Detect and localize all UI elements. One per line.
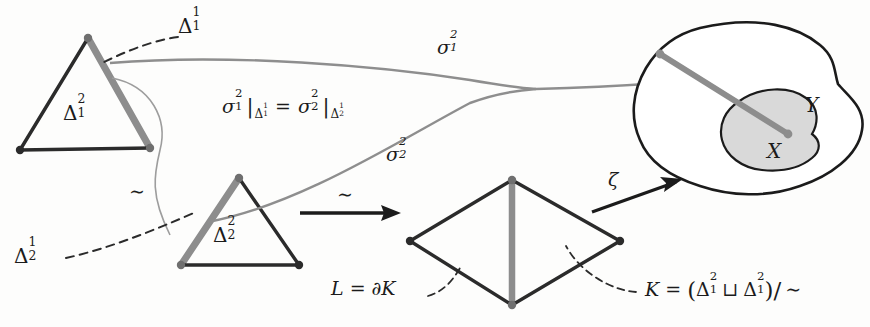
label-restriction-equation: σ221|Δ111=σ222|Δ112 — [222, 96, 344, 117]
diamond-vertex-bottom — [508, 301, 516, 309]
label-delta-2-1: Δ112 — [14, 246, 36, 266]
vertex-bottom-right-top — [146, 144, 154, 152]
vertex-bottom-left-bottom — [177, 261, 185, 269]
diamond-vertex-right — [616, 237, 624, 245]
label-space-X: X — [767, 141, 781, 161]
vertex-apex-bottom — [235, 174, 243, 182]
label-boundary-equation: L=∂K — [331, 279, 396, 298]
label-tilde-quotient-arrow: ∼ — [337, 185, 353, 204]
label-space-Y: Y — [805, 95, 818, 115]
sigma-1-squared-curve — [110, 59, 536, 89]
leader-delta-2-1 — [66, 212, 196, 258]
triangle-bottom-edge — [20, 148, 150, 150]
leader-L-boundary — [428, 268, 460, 296]
diamond-edge-bottom-right — [512, 241, 620, 305]
label-tilde-identification: ∼ — [129, 182, 145, 201]
diamond-vertex-top — [508, 176, 516, 184]
diamond-edge-bottom-left — [410, 241, 512, 305]
triangle-delta-2-squared — [177, 174, 303, 269]
zeta-arrow-head — [660, 177, 683, 192]
quotient-arrow — [300, 205, 401, 221]
zeta-arrow-shaft — [592, 182, 676, 212]
vertex-bottom-left-top — [16, 146, 24, 154]
vertex-apex-top — [84, 34, 92, 42]
zeta-arrow — [592, 177, 683, 212]
space-Y-blob — [634, 22, 863, 194]
label-zeta: ζ — [608, 170, 618, 189]
triangle2-right-edge — [239, 178, 299, 265]
quotient-arrow-head — [381, 205, 401, 221]
image-edge-start-dot — [656, 50, 665, 59]
vertex-bottom-right-bottom — [295, 261, 303, 269]
leader-delta-1-1 — [104, 37, 178, 62]
diamond-edge-top-right — [512, 180, 620, 241]
label-sigma-1-squared: σ221 — [437, 38, 457, 57]
diamond-complex-K — [406, 176, 624, 309]
image-edge-end-dot — [784, 130, 793, 139]
label-delta-1-2: Δ221 — [63, 103, 85, 123]
sigma-curves — [110, 59, 663, 222]
figure-canvas: Δ111 Δ221 Δ112 Δ222 σ221 σ222 σ221|Δ111=… — [0, 0, 870, 327]
label-delta-2-2: Δ222 — [213, 225, 235, 245]
diamond-edge-top-left — [410, 180, 512, 241]
label-sigma-2-squared: σ222 — [386, 145, 406, 164]
label-delta-1-1: Δ111 — [178, 16, 200, 36]
label-quotient-equation: K=(Δ221⊔Δ221)/∼ — [645, 277, 801, 300]
diamond-vertex-left — [406, 237, 414, 245]
